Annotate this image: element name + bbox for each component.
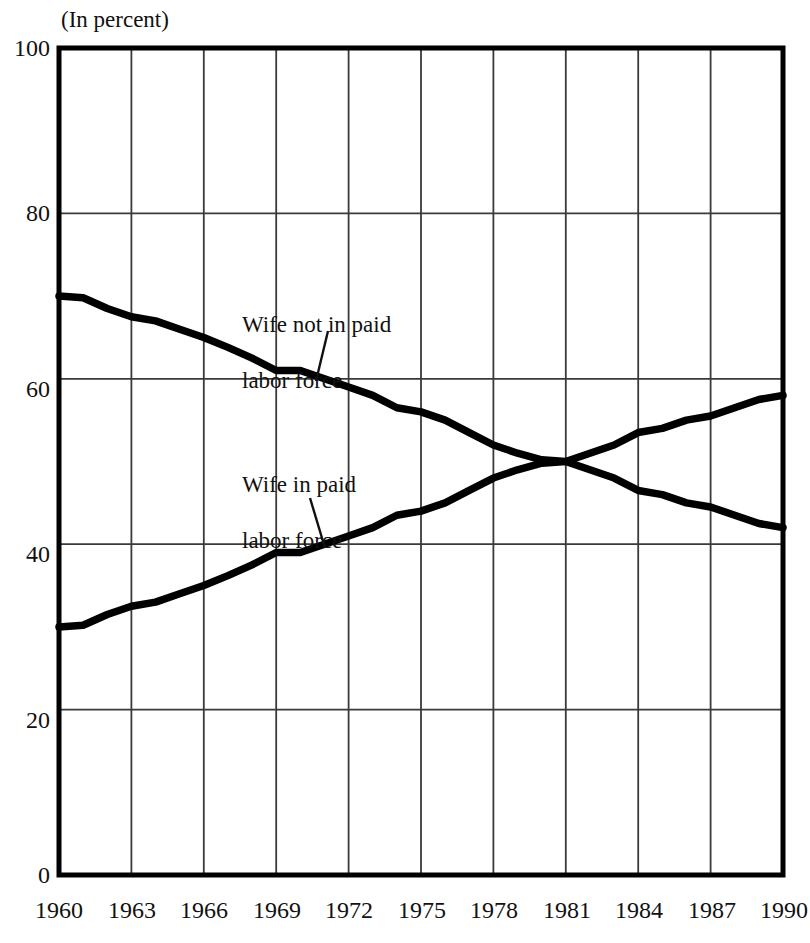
chart-figure: (In percent) 100 80 60 40 20 0 1960 1963… <box>0 0 810 943</box>
gridlines <box>59 48 783 875</box>
annotation-lower-line2: labor force <box>242 527 356 555</box>
annotation-lower-line1: Wife in paid <box>242 471 356 499</box>
annotation-upper-line2: labor force <box>242 367 391 395</box>
annotation-wife-in-paid-labor-force: Wife in paid labor force <box>242 443 356 583</box>
chart-plot-area <box>0 0 810 943</box>
annotation-upper-line1: Wife not in paid <box>242 311 391 339</box>
annotation-wife-not-in-paid-labor-force: Wife not in paid labor force <box>242 283 391 423</box>
